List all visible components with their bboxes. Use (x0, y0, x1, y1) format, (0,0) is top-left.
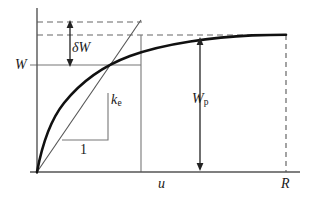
label-w-p-subscript: p (204, 97, 209, 107)
label-w-p-base: W (192, 91, 204, 106)
figure-container: W δW ke 1 Wp u R (0, 0, 310, 199)
label-unity: 1 (80, 143, 87, 157)
label-w: W (15, 58, 27, 72)
label-u: u (158, 177, 165, 191)
label-k-e: ke (111, 93, 122, 109)
slope-triangle (62, 93, 108, 140)
saturation-curve (37, 35, 286, 172)
label-k-e-subscript: e (117, 98, 121, 108)
label-delta-w: δW (72, 41, 90, 55)
label-r: R (281, 177, 290, 191)
plot-canvas (0, 0, 310, 199)
label-w-p: Wp (192, 92, 209, 108)
